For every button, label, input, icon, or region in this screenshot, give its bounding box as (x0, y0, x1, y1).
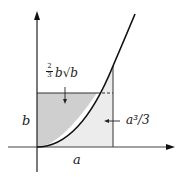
fraction-two-thirds: 2 3 (46, 63, 53, 79)
label-area-left: b√b (55, 67, 78, 79)
diagram-figure (0, 0, 182, 179)
y-axis-arrow-icon (34, 11, 40, 20)
label-b: b (22, 114, 30, 127)
label-area-right: a³/3 (126, 114, 150, 126)
fraction-denominator: 3 (47, 71, 51, 79)
label-a: a (73, 153, 81, 166)
x-axis-arrow-icon (166, 144, 175, 150)
fraction-numerator: 2 (47, 62, 51, 70)
